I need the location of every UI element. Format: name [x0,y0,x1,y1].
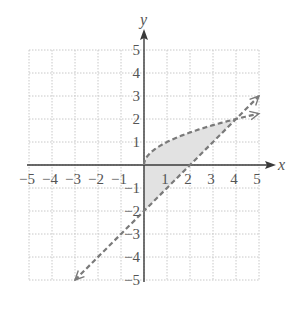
graph-plot: −5−4−3−2−11234554321−1−2−3−4−5 x y [0,0,298,312]
y-tick-label: 5 [133,42,141,58]
y-tick-label: −3 [124,226,140,242]
y-tick-label: 2 [133,111,141,127]
y-tick-label: 4 [133,65,141,81]
x-tick-label: −3 [65,171,81,187]
y-tick-label: −5 [124,272,140,288]
x-tick-label: 5 [253,171,261,187]
y-tick-label: −2 [124,203,140,219]
x-tick-label: 3 [207,171,215,187]
x-tick-label: −2 [88,171,104,187]
x-tick-label: 1 [161,171,169,187]
y-tick-label: 3 [133,88,141,104]
y-tick-label: 1 [133,134,141,150]
y-tick-label: −1 [124,180,140,196]
x-axis-label: x [277,156,285,173]
x-tick-label: 2 [184,171,192,187]
x-tick-label: −5 [19,171,35,187]
x-tick-label: 4 [230,171,238,187]
x-tick-label: −4 [42,171,58,187]
y-axis-label: y [138,11,148,29]
y-tick-label: −4 [124,249,140,265]
